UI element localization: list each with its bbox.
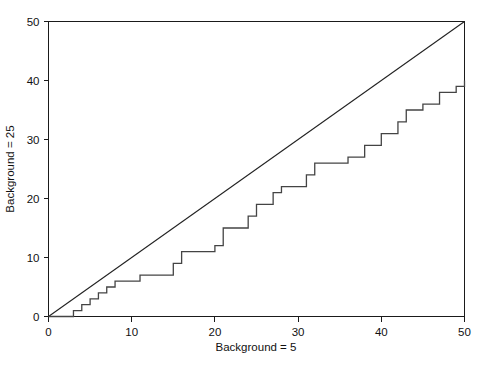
x-axis-ticks [49, 317, 465, 322]
chart-figure: 01020304050 01020304050 Background = 5 B… [0, 0, 485, 365]
y-axis-tick-labels: 01020304050 [27, 16, 40, 323]
y-tick-label: 0 [33, 311, 39, 323]
y-tick-label: 10 [27, 252, 40, 264]
chart-container: 01020304050 01020304050 Background = 5 B… [0, 0, 485, 365]
x-axis-tick-labels: 01020304050 [45, 326, 471, 338]
x-axis-title: Background = 5 [216, 341, 297, 353]
x-tick-label: 10 [125, 326, 138, 338]
y-axis-ticks [44, 22, 49, 317]
step-function-line [49, 81, 465, 317]
y-tick-label: 30 [27, 134, 40, 146]
x-tick-label: 0 [45, 326, 51, 338]
x-tick-label: 50 [458, 326, 471, 338]
y-tick-label: 50 [27, 16, 40, 28]
x-tick-label: 20 [209, 326, 222, 338]
x-tick-label: 40 [375, 326, 388, 338]
y-tick-label: 40 [27, 75, 40, 87]
identity-reference-line [49, 22, 465, 317]
y-axis-title: Background = 25 [4, 125, 16, 212]
x-tick-label: 30 [292, 326, 305, 338]
y-tick-label: 20 [27, 193, 40, 205]
